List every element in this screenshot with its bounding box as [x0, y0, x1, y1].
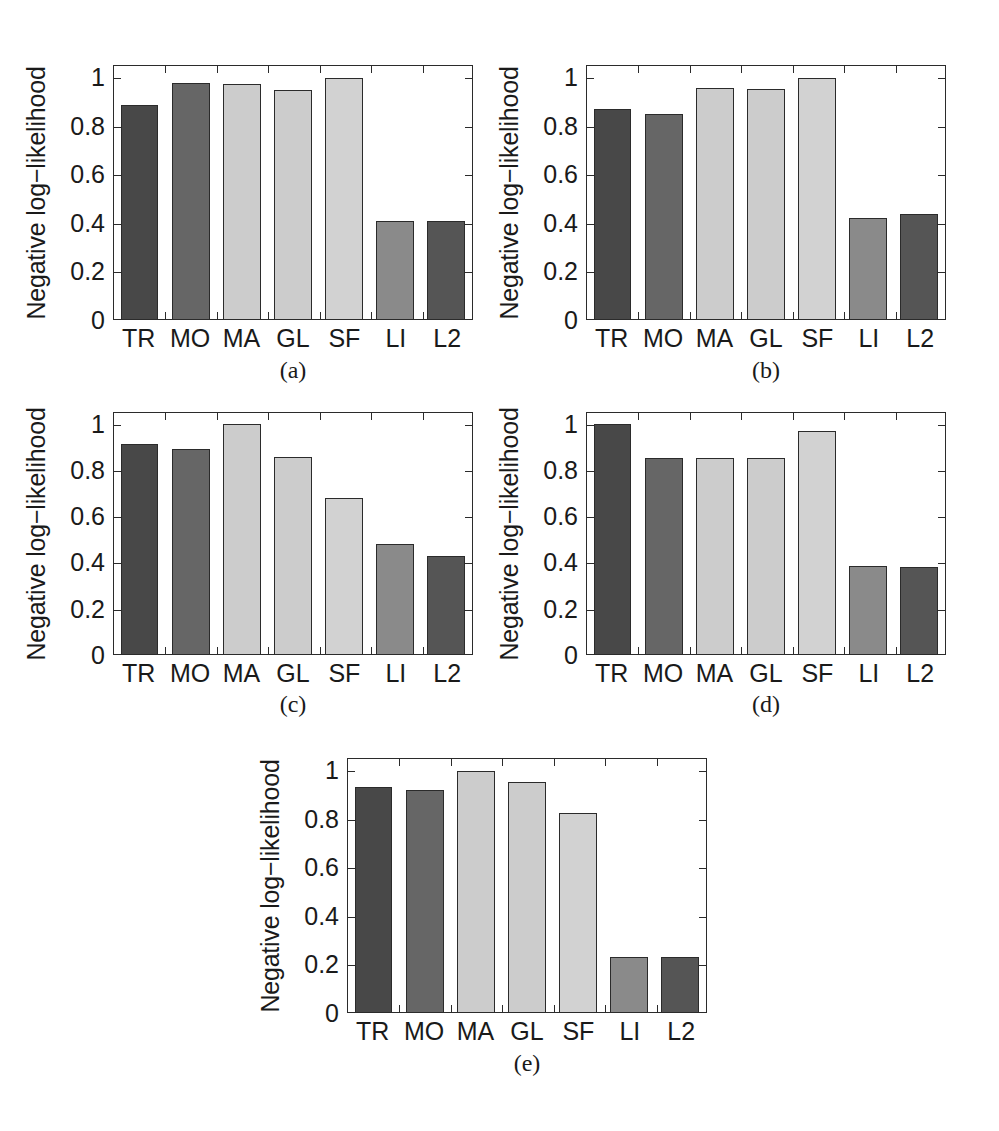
bar-slot-ma: [450, 759, 501, 1012]
y-tick-right-e-2: [699, 917, 706, 918]
y-tick-e-2: [348, 917, 355, 918]
x-tick-e-6: [657, 1005, 658, 1012]
x-tick-top-e-6: [657, 759, 658, 766]
x-tick-e-5: [605, 1005, 606, 1012]
panel-e: Negative log−likelihood00.20.40.60.81TRM…: [0, 0, 999, 1131]
figure-bar-chart-grid: Negative log−likelihood00.20.40.60.81TRM…: [0, 0, 999, 1131]
bar-slot-sf: [553, 759, 604, 1012]
bar-e-l2: [661, 957, 699, 1012]
bar-slot-l2: [655, 759, 706, 1012]
bar-e-sf: [559, 813, 597, 1012]
bar-e-ma: [457, 771, 495, 1012]
y-tick-label-e-0: 0: [275, 999, 339, 1028]
y-tick-e-5: [348, 771, 355, 772]
bar-e-li: [610, 957, 648, 1012]
bar-slot-gl: [501, 759, 552, 1012]
bar-slot-li: [604, 759, 655, 1012]
x-tick-label-e-mo: MO: [398, 1017, 449, 1046]
x-tick-top-e-3: [502, 759, 503, 766]
bar-e-mo: [406, 790, 444, 1012]
y-tick-e-1: [348, 965, 355, 966]
y-tick-label-e-1: 0.2: [275, 950, 339, 979]
bar-series-e: [348, 759, 706, 1012]
x-tick-label-e-gl: GL: [501, 1017, 552, 1046]
y-tick-label-e-4: 0.8: [275, 804, 339, 833]
y-tick-label-e-3: 0.6: [275, 853, 339, 882]
panel-caption-e: (e): [467, 1050, 587, 1077]
y-tick-right-e-1: [699, 965, 706, 966]
y-tick-right-e-5: [699, 771, 706, 772]
bar-e-tr: [355, 787, 393, 1012]
x-tick-label-e-l2: L2: [656, 1017, 707, 1046]
bar-slot-tr: [348, 759, 399, 1012]
x-tick-e-4: [554, 1005, 555, 1012]
x-tick-e-1: [399, 1005, 400, 1012]
x-tick-top-e-1: [399, 759, 400, 766]
y-tick-e-4: [348, 820, 355, 821]
plot-area-e: [347, 758, 707, 1013]
y-tick-label-e-5: 1: [275, 756, 339, 785]
x-tick-top-e-4: [554, 759, 555, 766]
y-tick-right-e-3: [699, 868, 706, 869]
x-tick-top-e-2: [451, 759, 452, 766]
x-tick-label-e-ma: MA: [450, 1017, 501, 1046]
x-tick-label-e-sf: SF: [553, 1017, 604, 1046]
bar-slot-mo: [399, 759, 450, 1012]
x-tick-top-e-5: [605, 759, 606, 766]
x-tick-label-e-li: LI: [604, 1017, 655, 1046]
x-tick-e-2: [451, 1005, 452, 1012]
x-tick-e-3: [502, 1005, 503, 1012]
x-tick-labels-e: TRMOMAGLSFLIL2: [347, 1017, 707, 1046]
y-tick-label-e-2: 0.4: [275, 901, 339, 930]
x-tick-label-e-tr: TR: [347, 1017, 398, 1046]
y-tick-e-3: [348, 868, 355, 869]
y-tick-right-e-4: [699, 820, 706, 821]
bar-e-gl: [508, 782, 546, 1012]
